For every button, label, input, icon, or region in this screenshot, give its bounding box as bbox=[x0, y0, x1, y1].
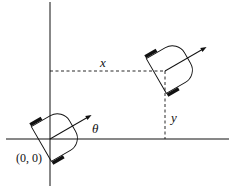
robot-at-pose bbox=[144, 26, 218, 97]
label-theta: θ bbox=[92, 122, 98, 135]
arrowhead-icon bbox=[85, 113, 92, 120]
arrowhead-icon bbox=[200, 45, 207, 52]
robot-pose-diagram: x y θ (0, 0) bbox=[0, 0, 232, 192]
label-origin: (0, 0) bbox=[16, 152, 42, 164]
label-y: y bbox=[171, 111, 177, 124]
label-x: x bbox=[100, 56, 106, 69]
